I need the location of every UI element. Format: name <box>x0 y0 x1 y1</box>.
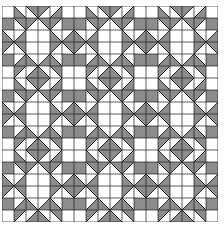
quilt-cell <box>74 18 86 30</box>
quilt-cell <box>2 78 14 90</box>
quilt-cell <box>26 114 38 126</box>
quilt-cell <box>62 66 74 78</box>
quilt-cell <box>146 138 158 150</box>
quilt-cell <box>206 66 218 78</box>
quilt-cell <box>38 186 50 198</box>
quilt-cell <box>206 126 218 138</box>
quilt-cell <box>206 54 218 66</box>
quilt-cell <box>38 102 50 114</box>
quilt-cell <box>62 18 74 30</box>
quilt-cell <box>110 102 122 114</box>
quilt-cell <box>182 30 194 42</box>
quilt-cell <box>38 174 50 186</box>
quilt-cell <box>146 54 158 66</box>
quilt-cell <box>134 150 146 162</box>
quilt-cell <box>98 186 110 198</box>
quilt-cell <box>134 90 146 102</box>
quilt-cell <box>38 114 50 126</box>
quilt-cell <box>2 6 14 18</box>
quilt-cell <box>170 114 182 126</box>
quilt-cell <box>74 126 86 138</box>
quilt-cell <box>206 6 218 18</box>
quilt-cell <box>74 66 86 78</box>
quilt-cell <box>98 102 110 114</box>
quilt-cell <box>182 42 194 54</box>
quilt-cell <box>62 198 74 210</box>
quilt-cell <box>2 162 14 174</box>
quilt-cell <box>170 42 182 54</box>
quilt-cell <box>110 30 122 42</box>
quilt-cell <box>98 30 110 42</box>
quilt-cell <box>134 54 146 66</box>
quilt-cell <box>2 90 14 102</box>
quilt-cell <box>206 150 218 162</box>
quilt-cell <box>206 18 218 30</box>
quilt-cell <box>134 210 146 222</box>
quilt-cell <box>134 162 146 174</box>
quilt-cell <box>110 114 122 126</box>
quilt-cell <box>206 198 218 210</box>
quilt-cell <box>110 174 122 186</box>
quilt-cell <box>170 102 182 114</box>
quilt-cell <box>62 90 74 102</box>
quilt-cell <box>26 30 38 42</box>
quilt-cell <box>146 66 158 78</box>
quilt-cell <box>74 162 86 174</box>
quilt-cell <box>26 42 38 54</box>
quilt-cell <box>146 210 158 222</box>
quilt-cell <box>2 150 14 162</box>
quilt-cell <box>38 30 50 42</box>
quilt-cell <box>2 210 14 222</box>
quilt-cell <box>74 198 86 210</box>
quilt-cell <box>134 18 146 30</box>
quilt-cell <box>146 90 158 102</box>
quilt-cell <box>26 102 38 114</box>
quilt-cell <box>38 42 50 54</box>
quilt-cell <box>134 126 146 138</box>
quilt-cell <box>146 18 158 30</box>
quilt-cell <box>74 6 86 18</box>
quilt-cell <box>98 42 110 54</box>
quilt-cell <box>110 42 122 54</box>
quilt-cell <box>74 90 86 102</box>
quilt-cell <box>26 186 38 198</box>
quilt-cell <box>62 210 74 222</box>
quilt-cell <box>170 186 182 198</box>
quilt-cell <box>206 78 218 90</box>
quilt-cell <box>62 126 74 138</box>
quilt-cell <box>2 66 14 78</box>
quilt-cell <box>206 138 218 150</box>
quilt-cell <box>182 174 194 186</box>
quilt-cell <box>206 210 218 222</box>
quilt-cell <box>26 174 38 186</box>
quilt-cell <box>2 198 14 210</box>
quilt-cell <box>170 174 182 186</box>
quilt-cell <box>146 6 158 18</box>
quilt-cell <box>74 78 86 90</box>
quilt-cell <box>170 30 182 42</box>
quilt-cell <box>74 138 86 150</box>
quilt-cell <box>206 162 218 174</box>
quilt-cell <box>62 138 74 150</box>
quilt-cell <box>134 66 146 78</box>
quilt-cell <box>2 138 14 150</box>
quilt-cell <box>146 162 158 174</box>
quilt-cell <box>182 186 194 198</box>
quilt-cell <box>98 174 110 186</box>
quilt-cell <box>2 126 14 138</box>
quilt-cell <box>62 162 74 174</box>
quilt-cell <box>182 114 194 126</box>
quilt-cell <box>2 18 14 30</box>
quilt-cell <box>2 54 14 66</box>
quilt-cell <box>62 54 74 66</box>
quilt-cell <box>134 78 146 90</box>
quilt-pattern <box>2 6 218 222</box>
quilt-cell <box>146 78 158 90</box>
quilt-cell <box>146 198 158 210</box>
quilt-cell <box>62 6 74 18</box>
quilt-cell <box>74 210 86 222</box>
quilt-cell <box>74 150 86 162</box>
quilt-cell <box>134 138 146 150</box>
quilt-cell <box>134 6 146 18</box>
quilt-cell <box>62 78 74 90</box>
